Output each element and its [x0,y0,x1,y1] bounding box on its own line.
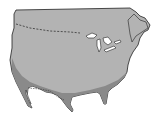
north-america-map [0,0,157,123]
